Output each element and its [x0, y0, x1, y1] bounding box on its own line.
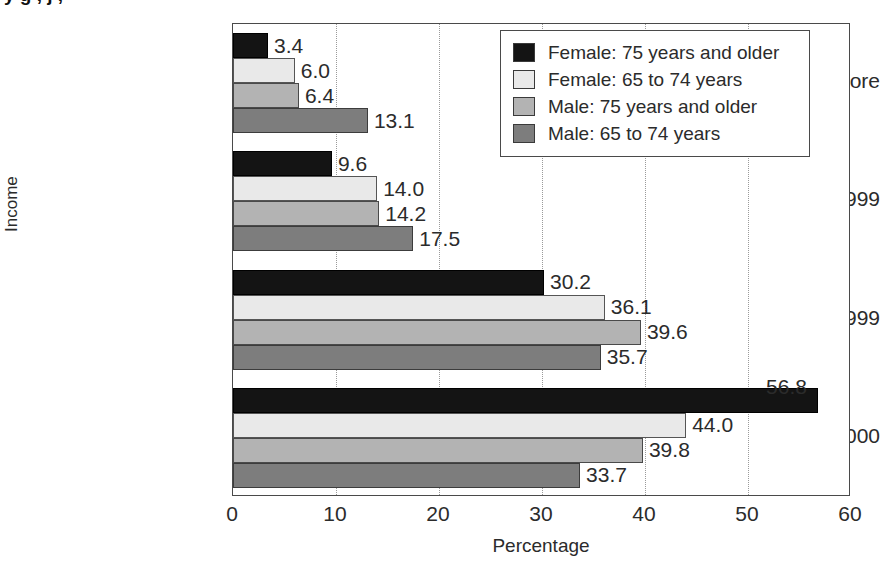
bar[interactable]	[233, 201, 379, 226]
legend-swatch-icon	[513, 70, 535, 89]
x-axis-title: Percentage	[232, 535, 850, 557]
bar[interactable]	[233, 463, 580, 488]
bar-row: 14.2	[233, 201, 849, 226]
bar-row: 14.0	[233, 176, 849, 201]
bar-row: 39.6	[233, 320, 849, 345]
bar[interactable]	[233, 151, 332, 176]
bar-group: 9.614.014.217.5	[233, 151, 849, 251]
bar-value-label: 6.4	[299, 84, 334, 108]
bar[interactable]	[233, 270, 544, 295]
x-tick-label: 30	[529, 502, 552, 526]
legend-label: Male: 75 years and older	[548, 96, 757, 118]
legend-item[interactable]: Male: 65 to 74 years	[513, 120, 799, 147]
bar-row: 44.0	[233, 413, 849, 438]
bar-row: 17.5	[233, 226, 849, 251]
bar[interactable]	[233, 388, 818, 413]
bar-row: 33.7	[233, 463, 849, 488]
bar[interactable]	[233, 176, 377, 201]
bar-value-label: 39.6	[641, 320, 688, 344]
bar[interactable]	[233, 345, 601, 370]
bar-row: 56.8	[233, 388, 849, 413]
y-axis-title: Income	[2, 176, 22, 232]
bar-value-label: 14.2	[379, 202, 426, 226]
legend-item[interactable]: Female: 65 to 74 years	[513, 66, 799, 93]
bar[interactable]	[233, 320, 641, 345]
bar-value-label: 17.5	[413, 227, 460, 251]
legend-label: Female: 75 years and older	[548, 42, 779, 64]
x-tick-label: 20	[426, 502, 449, 526]
legend-label: Female: 65 to 74 years	[548, 69, 742, 91]
bar[interactable]	[233, 33, 268, 58]
chart-title-fragment: y g , j ,	[0, 0, 880, 6]
x-tick-label: 50	[735, 502, 758, 526]
bar-group: 30.236.139.635.7	[233, 270, 849, 370]
bar[interactable]	[233, 58, 295, 83]
bar-row: 30.2	[233, 270, 849, 295]
bar-value-label: 13.1	[368, 109, 415, 133]
bar-value-label: 44.0	[686, 413, 733, 437]
bar-row: 39.8	[233, 438, 849, 463]
bar-value-label: 30.2	[544, 270, 591, 294]
bar-value-label: 14.0	[377, 177, 424, 201]
bar[interactable]	[233, 226, 413, 251]
bar-group: 56.844.039.833.7	[233, 388, 849, 488]
x-tick-label: 60	[838, 502, 861, 526]
bar-value-label: 33.7	[580, 463, 627, 487]
bar-value-label: 35.7	[601, 345, 648, 369]
legend-swatch-icon	[513, 97, 535, 116]
bar-value-label: 36.1	[605, 295, 652, 319]
bar[interactable]	[233, 438, 643, 463]
bar[interactable]	[233, 83, 299, 108]
legend-label: Male: 65 to 74 years	[548, 123, 720, 145]
x-tick-label: 10	[323, 502, 346, 526]
legend: Female: 75 years and olderFemale: 65 to …	[500, 30, 810, 157]
bar-value-label: 39.8	[643, 438, 690, 462]
bar[interactable]	[233, 108, 368, 133]
bar-row: 35.7	[233, 345, 849, 370]
legend-item[interactable]: Female: 75 years and older	[513, 39, 799, 66]
bar[interactable]	[233, 413, 686, 438]
x-tick-label: 40	[632, 502, 655, 526]
cropped-title-strip: y g , j ,	[0, 0, 880, 6]
bar-value-label: 6.0	[295, 59, 330, 83]
legend-item[interactable]: Male: 75 years and older	[513, 93, 799, 120]
legend-swatch-icon	[513, 43, 535, 62]
bar-value-label: 3.4	[268, 34, 303, 58]
legend-swatch-icon	[513, 124, 535, 143]
bar-value-label: 9.6	[332, 152, 367, 176]
x-tick-label: 0	[226, 502, 238, 526]
bar-row: 36.1	[233, 295, 849, 320]
bar-value-label: 56.8	[760, 375, 807, 399]
bar[interactable]	[233, 295, 605, 320]
